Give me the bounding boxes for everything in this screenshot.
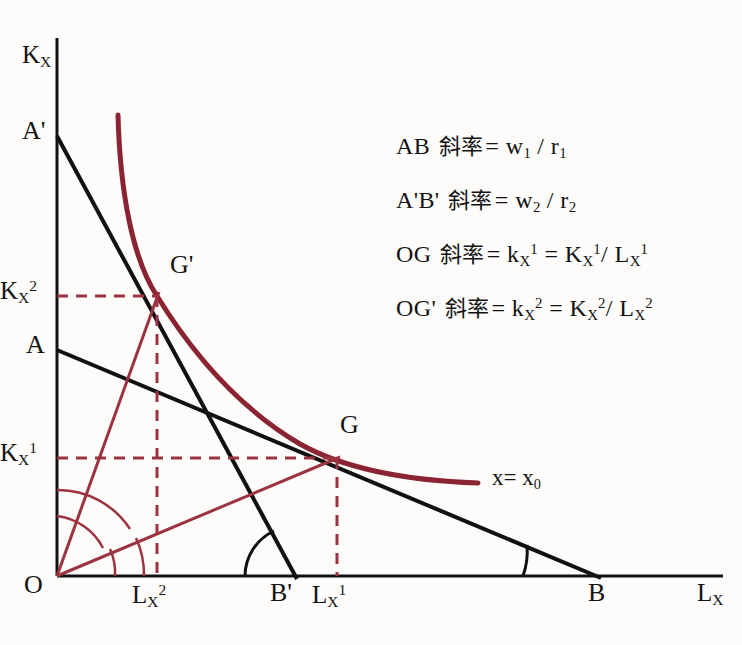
legend-row-ab-slope: AB 斜率= w1 / r1 (396, 128, 726, 162)
isocost-line-a-prime-b-prime (57, 136, 297, 579)
legend-equals-og-prime: = (491, 295, 505, 321)
angle-arc-b (523, 545, 527, 576)
legend-cjk-og: 斜率 (438, 242, 487, 267)
x-axis-label: LX (697, 580, 723, 608)
diagram-canvas: KX LX O A' A B' B G G' KX2 KX1 LX2 LX1 x… (0, 0, 742, 645)
legend-equals2-og: = (544, 241, 558, 267)
tick-label-lx1: LX1 (312, 582, 346, 610)
legend-divider-ab-prime: / (547, 187, 554, 213)
legend-num-ab-prime: w2 (515, 187, 540, 213)
legend-line-name-ab: AB (396, 133, 430, 159)
legend-divider-og-prime: / (606, 295, 613, 321)
legend-row-og-prime-slope: OG' 斜率= kX2 = KX2/ LX2 (396, 290, 726, 324)
legend-divider-ab: / (537, 133, 544, 159)
legend-line-name-og-prime: OG' (396, 295, 436, 321)
legend-num-ab: w1 (506, 133, 531, 159)
legend-line-name-ab-prime: A'B' (396, 187, 440, 213)
y-axis-label: KX (22, 42, 51, 70)
legend-den-og: LX1 (615, 241, 649, 267)
point-label-g: G (340, 412, 359, 438)
angle-arc-og-prime-outer (57, 490, 130, 529)
expansion-ray-og-prime (57, 292, 159, 576)
legend-den-og-prime: LX2 (619, 295, 653, 321)
legend-equals-ab: = (485, 133, 499, 159)
slope-legend: AB 斜率= w1 / r1 A'B' 斜率= w2 / r2 OG 斜率= k… (396, 128, 726, 345)
angle-arc-og-prime (57, 516, 103, 548)
tick-label-kx1: KX1 (0, 440, 37, 468)
legend-k-og-prime: kX2 (512, 295, 543, 321)
legend-equals2-og-prime: = (549, 295, 563, 321)
legend-equals-ab-prime: = (495, 187, 509, 213)
legend-num-og-prime: KX2 (570, 295, 606, 321)
legend-equals-og: = (487, 241, 501, 267)
legend-den-ab: r1 (551, 133, 567, 159)
legend-num-og: KX1 (565, 241, 601, 267)
legend-divider-og: / (601, 241, 608, 267)
tick-label-lx2: LX2 (132, 582, 166, 610)
legend-line-name-og: OG (396, 241, 431, 267)
legend-row-ab-prime-slope: A'B' 斜率= w2 / r2 (396, 182, 726, 216)
point-label-b: B (588, 580, 605, 606)
angle-arc-og (136, 538, 144, 576)
point-label-b-prime: B' (270, 580, 292, 606)
tick-label-kx2: KX2 (0, 278, 37, 306)
point-label-a: A (26, 332, 45, 358)
point-label-g-prime: G' (170, 252, 193, 278)
legend-den-ab-prime: r2 (560, 187, 576, 213)
point-label-a-prime: A' (22, 118, 45, 144)
expansion-ray-og (57, 457, 340, 576)
legend-cjk-ab-prime: 斜率 (446, 188, 495, 213)
isoquant-curve-label: x= x0 (492, 466, 541, 491)
legend-cjk-ab: 斜率 (437, 134, 486, 159)
angle-arc-b-prime (245, 531, 274, 576)
origin-label: O (24, 572, 43, 598)
legend-cjk-og-prime: 斜率 (443, 296, 492, 321)
legend-k-og: kX1 (507, 241, 538, 267)
legend-row-og-slope: OG 斜率= kX1 = KX1/ LX1 (396, 236, 726, 270)
